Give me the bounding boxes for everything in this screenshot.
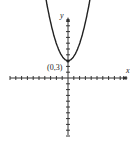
vertex-point xyxy=(66,59,69,62)
coordinate-plane xyxy=(0,0,137,155)
vertex-label: (0,3) xyxy=(47,64,62,72)
y-axis xyxy=(66,17,70,135)
y-axis-label: y xyxy=(60,12,64,20)
x-axis-label: x xyxy=(126,67,130,75)
